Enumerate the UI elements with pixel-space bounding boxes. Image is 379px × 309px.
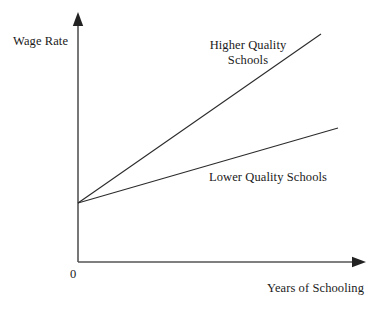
y-axis-arrow-icon [73,12,83,26]
series-label-line-1: Higher Quality [210,38,287,52]
x-axis-label: Years of Schooling [267,281,364,296]
series-label-lower-quality-schools: Lower Quality Schools [209,170,327,185]
chart-figure: Wage Rate Years of Schooling 0 Higher Qu… [0,0,379,309]
y-axis-label: Wage Rate [13,34,68,49]
origin-tick-label: 0 [70,267,76,282]
series-line-lower-quality-schools [78,128,338,203]
x-axis-arrow-icon [352,257,366,267]
series-label-line-2: Schools [228,53,268,67]
series-label-higher-quality-schools: Higher Quality Schools [200,38,296,68]
